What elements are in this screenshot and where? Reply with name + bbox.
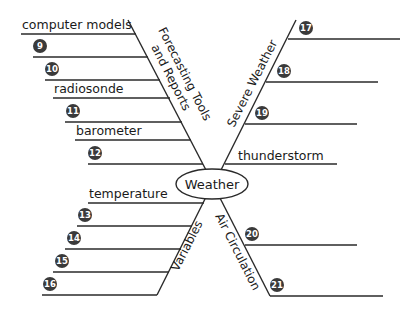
svg-text:14: 14 — [68, 233, 80, 243]
svg-text:11: 11 — [67, 106, 79, 116]
item-radiosonde: radiosonde — [54, 81, 124, 96]
svg-text:17: 17 — [300, 23, 312, 33]
svg-text:16: 16 — [44, 279, 56, 289]
severe-weather-title: Severe Weather — [224, 38, 280, 130]
svg-text:9: 9 — [37, 41, 43, 51]
item-thunderstorm: thunderstorm — [238, 148, 324, 163]
number-badge-15: 15 — [55, 254, 69, 268]
svg-text:13: 13 — [79, 210, 91, 220]
item-temperature: temperature — [89, 186, 168, 201]
number-badge-16: 16 — [43, 277, 57, 291]
item-computer-models: computer models — [22, 17, 132, 32]
svg-text:20: 20 — [246, 229, 258, 239]
svg-text:Air Circulation: Air Circulation — [212, 211, 263, 293]
number-badge-9: 9 — [33, 39, 47, 53]
svg-text:19: 19 — [256, 108, 268, 118]
air-circulation-items: 20 21 — [245, 227, 383, 296]
number-badge-21: 21 — [270, 278, 284, 292]
number-badge-18: 18 — [277, 64, 291, 78]
svg-text:10: 10 — [46, 64, 58, 74]
svg-text:15: 15 — [56, 256, 68, 266]
number-badge-14: 14 — [67, 231, 81, 245]
number-badge-10: 10 — [45, 62, 59, 76]
center-node: Weather — [176, 169, 248, 199]
variables-items: temperature 13 14 15 16 — [42, 186, 204, 295]
number-badge-11: 11 — [66, 104, 80, 118]
air-circulation-title: Air Circulation — [212, 211, 263, 293]
svg-text:12: 12 — [89, 148, 101, 158]
weather-concept-map: computer models 9 10 radiosonde 11 barom… — [0, 0, 416, 314]
number-badge-12: 12 — [88, 146, 102, 160]
forecasting-title: Forecasting Tools and Reports — [143, 25, 215, 129]
svg-text:21: 21 — [271, 280, 283, 290]
number-badge-17: 17 — [299, 21, 313, 35]
item-barometer: barometer — [76, 123, 143, 138]
number-badge-13: 13 — [78, 208, 92, 222]
number-badge-20: 20 — [245, 227, 259, 241]
svg-text:18: 18 — [278, 66, 290, 76]
svg-text:Severe Weather: Severe Weather — [224, 38, 280, 130]
center-label: Weather — [185, 177, 240, 192]
number-badge-19: 19 — [255, 106, 269, 120]
